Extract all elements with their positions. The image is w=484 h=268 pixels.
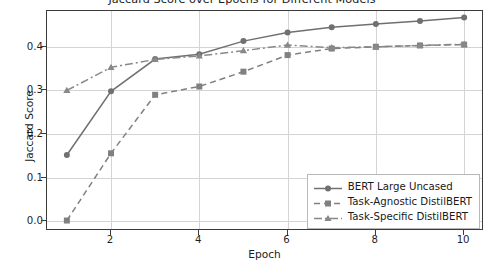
legend-item-3[interactable]: Task-Specific DistilBERT	[313, 209, 472, 224]
x-axis-tick-mark	[463, 230, 464, 235]
data-point-marker	[152, 56, 159, 62]
series-line	[67, 44, 464, 90]
data-point-marker	[240, 47, 247, 53]
y-axis-tick-label: 0.4	[9, 40, 43, 51]
x-axis-tick-label: 6	[272, 234, 302, 245]
data-point-marker	[152, 56, 158, 62]
y-axis-tick-label: 0.3	[9, 84, 43, 95]
data-point-marker	[329, 24, 335, 30]
data-point-marker	[152, 92, 158, 98]
legend-item-1[interactable]: BERT Large Uncased	[313, 179, 472, 194]
x-axis-tick-label: 2	[95, 234, 125, 245]
data-point-marker	[240, 69, 246, 75]
gridline-horizontal	[47, 134, 482, 135]
data-point-marker	[240, 38, 246, 44]
data-point-marker	[325, 186, 331, 192]
legend-swatch-square-icon	[313, 195, 343, 208]
legend-item-2[interactable]: Task-Agnostic DistilBERT	[313, 194, 472, 209]
x-axis-tick-mark	[198, 230, 199, 235]
chart-title: Jaccard Score over Epochs for Different …	[0, 0, 484, 6]
gridline-vertical	[199, 11, 200, 229]
data-point-marker	[417, 18, 423, 24]
gridline-vertical	[111, 11, 112, 229]
legend-label: BERT Large Uncased	[348, 181, 453, 192]
chart-figure: Jaccard Score over Epochs for Different …	[0, 0, 484, 268]
gridline-horizontal	[47, 90, 482, 91]
x-axis-tick-mark	[287, 230, 288, 235]
x-axis-tick-label: 10	[448, 234, 478, 245]
legend-swatch-circle-icon	[313, 180, 343, 193]
legend-swatch-triangle-icon	[313, 210, 343, 223]
series-1	[64, 15, 467, 159]
series-3	[63, 41, 467, 93]
chart-legend: BERT Large UncasedTask-Agnostic DistilBE…	[307, 174, 480, 229]
legend-label: Task-Agnostic DistilBERT	[348, 196, 472, 207]
y-axis-tick-label: 0.1	[9, 171, 43, 182]
data-point-marker	[64, 152, 70, 158]
x-axis-tick-mark	[110, 230, 111, 235]
x-axis-tick-label: 8	[360, 234, 390, 245]
y-axis-tick-label: 0.0	[9, 215, 43, 226]
gridline-vertical	[288, 11, 289, 229]
data-point-marker	[325, 201, 331, 207]
x-axis-label: Epoch	[46, 248, 483, 260]
y-axis-tick-label: 0.2	[9, 128, 43, 139]
gridline-horizontal	[47, 47, 482, 48]
x-axis-tick-mark	[375, 230, 376, 235]
legend-label: Task-Specific DistilBERT	[348, 211, 468, 222]
x-axis-tick-label: 4	[183, 234, 213, 245]
